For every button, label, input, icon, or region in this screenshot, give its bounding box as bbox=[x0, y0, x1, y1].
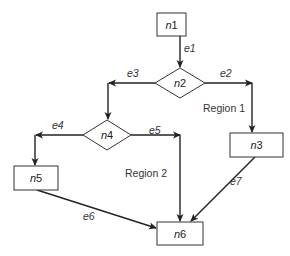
svg-text:n4: n4 bbox=[101, 129, 113, 141]
edge-label-e5: e5 bbox=[149, 124, 161, 136]
node-n5: n5 bbox=[14, 166, 58, 190]
region-label-1: Region 1 bbox=[203, 102, 245, 114]
svg-text:n1: n1 bbox=[165, 19, 177, 31]
edge-label-e4: e4 bbox=[52, 119, 64, 131]
svg-text:n2: n2 bbox=[174, 77, 186, 89]
edge-label-e1: e1 bbox=[184, 42, 196, 54]
svg-text:n5: n5 bbox=[30, 172, 42, 184]
node-n4: n4 bbox=[83, 120, 131, 150]
edge-label-e6: e6 bbox=[83, 210, 95, 222]
svg-text:n6: n6 bbox=[174, 228, 186, 240]
edge-label-e7: e7 bbox=[230, 175, 243, 187]
edge-e7 bbox=[191, 157, 255, 221]
edge-label-e2: e2 bbox=[220, 67, 232, 79]
node-n2: n2 bbox=[155, 68, 205, 98]
control-flow-diagram: n1 n2 n3 n4 n5 n6 e1 e2 e3 e4 e5 e6 e7 R… bbox=[0, 0, 290, 256]
node-n3: n3 bbox=[230, 133, 283, 157]
edge-label-e3: e3 bbox=[127, 67, 139, 79]
node-n1: n1 bbox=[157, 13, 186, 36]
region-label-2: Region 2 bbox=[125, 167, 167, 179]
edge-e6 bbox=[37, 190, 156, 228]
svg-text:n3: n3 bbox=[250, 139, 262, 151]
node-n6: n6 bbox=[157, 222, 203, 245]
